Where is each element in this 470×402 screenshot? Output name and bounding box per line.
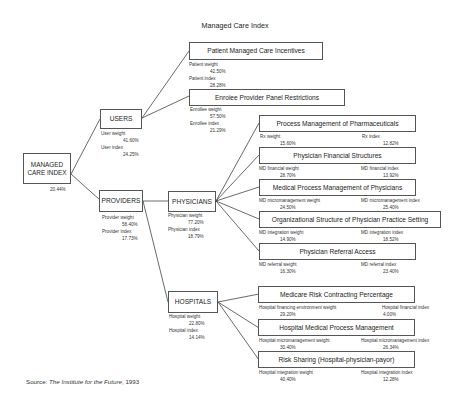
physician-weight-value: 77.20% [188, 220, 204, 225]
process-management-pharmaceuticals-node: Process Management of Pharmaceuticals [259, 115, 416, 132]
hospital-index-label: Hospital index [169, 328, 198, 334]
provider-weight-label: Provider weight [102, 215, 134, 221]
physician-financial-structures-node: Physician Financial Structures [259, 147, 416, 164]
providers-node: PROVIDERS [99, 190, 143, 212]
md-micromanagement-weight-value: 24.50% [280, 205, 296, 210]
md-referral-weight-label: MD referral weight [259, 262, 297, 268]
provider-index-value: 17.73% [122, 236, 138, 241]
source-prefix: Source: [26, 378, 49, 385]
managed-care-index-node: MANAGED CARE INDEX [23, 153, 71, 184]
users-node: USERS [100, 109, 142, 129]
provider-weight-value: 58.40% [122, 222, 138, 227]
enrollee-provider-panel-restrictions-node: Enroiee Provider Panel Restrictions [189, 89, 345, 106]
md-micromanagement-weight-label: MD micromanagement weight [259, 198, 320, 204]
pharma-node-label: Process Management of Pharmaceuticals [276, 120, 398, 128]
hospital-integration-index-label: Hospital integration index [361, 370, 413, 376]
root-label-line2: CARE INDEX [27, 169, 66, 176]
hospital-micromanagement-weight-label: Hospital micromanagement weight [259, 338, 329, 344]
hospital-micromanagement-weight-value: 30.40% [280, 345, 296, 350]
enrollee-weight-label: Enrollee weight [190, 107, 221, 113]
patient-weight-value: 42.50% [210, 69, 226, 74]
patient-index-value: 28.28% [210, 83, 226, 88]
md-referral-index-label: MD referral index [361, 262, 396, 268]
financial-node-label: Physician Financial Structures [293, 152, 381, 160]
patient-weight-label: Patient weight [189, 62, 218, 68]
physician-index-label: Physician index [168, 227, 200, 233]
organizational-structure-node: Organizational Structure of Physician Pr… [259, 211, 441, 228]
md-integration-weight-value: 14.90% [280, 237, 296, 242]
rx-index-label: Rx index [362, 134, 380, 140]
hospital-medical-process-management-node: Hospital Medical Process Management [258, 319, 415, 336]
physician-weight-label: Physician weight [168, 213, 202, 219]
enrollee-weight-value: 57.50% [210, 114, 226, 119]
med-process-node-label: Medical Process Management of Physicians [273, 184, 402, 192]
physician-referral-access-node: Physician Referral Access [259, 243, 416, 260]
hospital-index-value: 14.14% [189, 335, 205, 340]
patient-index-label: Patient index [189, 76, 216, 82]
medical-process-management-physicians-node: Medical Process Management of Physicians [259, 179, 416, 196]
hospitals-label: HOSPITALS [175, 298, 212, 306]
root-label-line1: MANAGED [31, 161, 63, 168]
providers-label: PROVIDERS [102, 197, 141, 205]
enrollee-node-label: Enroiee Provider Panel Restrictions [215, 94, 319, 102]
medicare-node-label: Medicare Risk Contracting Percentage [280, 291, 393, 299]
md-integration-weight-label: MD integration weight [259, 230, 303, 236]
medicare-risk-contracting-node: Medicare Risk Contracting Percentage [258, 286, 415, 303]
source-citation: Source: The Institute for the Future, 19… [26, 378, 139, 385]
hospital-integration-weight-value: 40.40% [280, 377, 296, 382]
hospital-financing-weight-value: 29.20% [280, 312, 296, 317]
enrollee-index-value: 21.29% [210, 128, 226, 133]
patient-managed-care-incentives-node: Patient Managed Care Incentives [189, 42, 323, 60]
user-index-value: 24.25% [123, 152, 139, 157]
user-weight-value: 41.60% [123, 138, 139, 143]
md-financial-index-value: 13.92% [383, 173, 399, 178]
physician-index-value: 18.79% [188, 234, 204, 239]
hospital-weight-label: Hospital weight [169, 314, 200, 320]
md-micromanagement-index-value: 25.40% [383, 205, 399, 210]
user-weight-label: User weight [101, 131, 125, 137]
risk-sharing-node-label: Risk Sharing (Hospital-physician-payor) [279, 356, 395, 364]
source-publisher: The Institute for the Future [49, 378, 122, 385]
rx-weight-label: Rx weight [260, 134, 280, 140]
hospital-financial-index-label: Hospital financial index [382, 305, 429, 311]
enrollee-index-label: Enrollee index [190, 121, 219, 127]
rx-index-value: 12.82% [383, 141, 399, 146]
md-referral-index-value: 23.40% [383, 269, 399, 274]
patient-node-label: Patient Managed Care Incentives [207, 47, 305, 55]
source-year: , 1993 [122, 378, 139, 385]
user-index-label: User index [101, 145, 123, 151]
risk-sharing-node: Risk Sharing (Hospital-physician-payor) [258, 351, 415, 368]
md-micromanagement-index-label: MD micromanagement index [361, 198, 420, 204]
hospital-financing-weight-label: Hospital financing environment weight [259, 305, 336, 311]
md-financial-weight-label: MD financial weight [259, 166, 299, 172]
physicians-node: PHYSICIANS [168, 191, 216, 212]
hospital-weight-value: 22.80% [189, 321, 205, 326]
hospital-integration-weight-label: Hospital integration weight [259, 370, 313, 376]
md-integration-index-value: 18.52% [383, 237, 399, 242]
md-financial-weight-value: 28.70% [280, 173, 296, 178]
referral-node-label: Physician Referral Access [299, 248, 375, 256]
provider-index-label: Provider index [102, 229, 131, 235]
hospital-integration-index-value: 12.28% [383, 377, 399, 382]
md-referral-weight-value: 16.30% [280, 269, 296, 274]
org-structure-node-label: Organizational Structure of Physician Pr… [272, 216, 429, 224]
hospital-micromanagement-index-value: 26.34% [383, 345, 399, 350]
hospital-micromanagement-index-label: Hospital micromanagement index [361, 338, 429, 344]
md-financial-index-label: MD financial index [361, 166, 399, 172]
md-integration-index-label: MD integration index [361, 230, 403, 236]
rx-weight-value: 15.60% [280, 141, 296, 146]
root-value: 20.44% [50, 187, 66, 192]
physicians-label: PHYSICIANS [172, 198, 212, 206]
hospital-financial-index-value: 4.00% [383, 312, 396, 317]
users-label: USERS [110, 115, 133, 123]
hospitals-node: HOSPITALS [168, 291, 218, 313]
hospital-process-node-label: Hospital Medical Process Management [279, 324, 393, 332]
